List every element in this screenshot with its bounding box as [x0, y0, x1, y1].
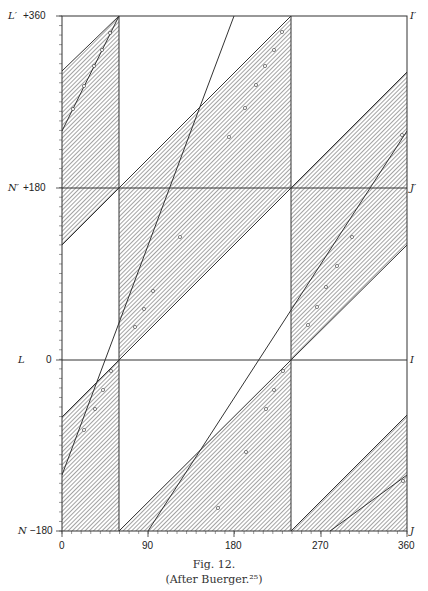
label-L: L: [18, 354, 25, 365]
xtick-0: 0: [59, 540, 65, 551]
ytick-0: 0: [46, 354, 52, 365]
xtick-270: 270: [312, 540, 329, 551]
label-N: N: [18, 525, 27, 536]
xtick-360: 360: [398, 540, 415, 551]
hatched-regions: [62, 16, 407, 531]
xtick-90: 90: [142, 540, 153, 551]
diagram-canvas: [0, 0, 428, 591]
label-I-prime: I′: [410, 10, 416, 21]
figure-source: (After Buerger.²⁵): [0, 573, 428, 586]
xtick-180: 180: [225, 540, 242, 551]
label-I: I: [410, 354, 414, 365]
ytick-neg180: −180: [30, 525, 53, 536]
label-J: J: [410, 525, 414, 536]
label-N-prime: N′: [8, 182, 19, 193]
label-L-prime: L′: [8, 10, 17, 21]
label-J-prime: J′: [410, 182, 416, 193]
ytick-180: +180: [23, 182, 46, 193]
ytick-360: +360: [23, 10, 46, 21]
figure-caption: Fig. 12.: [0, 558, 428, 571]
